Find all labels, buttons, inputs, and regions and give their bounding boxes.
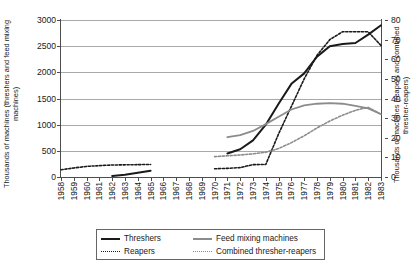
y-axis-left-tick-label: 500: [22, 146, 56, 156]
legend-swatch-dotted-black-icon: [101, 247, 120, 256]
y-axis-left-tick-label: 1000: [22, 120, 56, 130]
chart-legend: Threshers Feed mixing machines Reapers C…: [96, 229, 325, 260]
x-axis-tickmark: [202, 177, 203, 181]
x-axis-tickmark: [151, 177, 152, 181]
legend-row: Reapers Combined thresher-reapers: [101, 245, 320, 258]
x-axis-tickmark: [279, 177, 280, 181]
x-axis-tick-label: 1982: [364, 182, 373, 200]
y-axis-left-tick-label: 0: [22, 172, 56, 182]
x-axis-tick-label: 1973: [249, 182, 258, 200]
legend-label: Feed mixing machines: [216, 234, 298, 243]
y-axis-left-title: Thousands of machines (threshers and fee…: [2, 14, 20, 194]
y-axis-left-tick-label: 3000: [22, 15, 56, 25]
x-axis-tickmark: [189, 177, 190, 181]
y-axis-right-tickmark: [385, 40, 388, 41]
plot-area: [61, 20, 381, 177]
legend-row: Threshers Feed mixing machines: [101, 232, 320, 245]
series-line: [215, 32, 381, 169]
x-axis-tickmark: [112, 177, 113, 181]
x-axis-tickmark: [317, 177, 318, 181]
x-axis-tickmark: [266, 177, 267, 181]
legend-swatch-solid-gray-icon: [193, 234, 212, 243]
x-axis-tick-label: 1983: [377, 182, 386, 200]
x-axis-tickmark: [163, 177, 164, 181]
x-axis-tickmark: [87, 177, 88, 181]
x-axis-tickmark: [343, 177, 344, 181]
x-axis-tickmark: [227, 177, 228, 181]
legend-label: Combined thresher-reapers: [216, 247, 316, 256]
x-axis-tick-label: 1979: [326, 182, 335, 200]
x-axis-tick-label: 1980: [339, 182, 348, 200]
series-layer: [61, 20, 381, 177]
y-axis-right-tickmark: [385, 157, 388, 158]
x-axis-tick-label: 1965: [147, 182, 156, 200]
x-axis-tickmark: [240, 177, 241, 181]
x-axis-tick-label: 1974: [262, 182, 271, 200]
y-axis-right-tickmark: [385, 20, 388, 21]
x-axis-tick-label: 1972: [236, 182, 245, 200]
x-axis-tick-label: 1981: [351, 182, 360, 200]
x-axis-labels: 1958195919601961196219631964196519661967…: [61, 182, 382, 222]
x-axis-tickmark: [291, 177, 292, 181]
x-axis-tickmark: [74, 177, 75, 181]
legend-item-threshers: Threshers: [101, 232, 193, 245]
x-axis-tick-label: 1978: [313, 182, 322, 200]
y-axis-left-tick-label: 2500: [22, 41, 56, 51]
x-axis-tickmark: [253, 177, 254, 181]
legend-label: Reapers: [124, 247, 155, 256]
x-axis-tick-label: 1971: [223, 182, 232, 200]
x-axis-tickmark: [330, 177, 331, 181]
legend-item-reapers: Reapers: [101, 245, 193, 258]
y-axis-right-tickmark: [385, 59, 388, 60]
x-axis-tick-label: 1961: [95, 182, 104, 200]
x-axis-tickmark: [215, 177, 216, 181]
x-axis-tick-label: 1967: [172, 182, 181, 200]
y-axis-left-ticks: 050010001500200025003000: [20, 20, 56, 177]
x-axis-tick-label: 1966: [159, 182, 168, 200]
y-axis-left-tick-label: 2000: [22, 67, 56, 77]
x-axis-tick-label: 1959: [70, 182, 79, 200]
x-axis-tick-label: 1970: [211, 182, 220, 200]
y-axis-right-tickmark: [385, 118, 388, 119]
y-axis-right-tickmark: [385, 99, 388, 100]
x-axis-tickmark: [304, 177, 305, 181]
x-axis-tickmark: [61, 177, 62, 181]
x-axis-tickmark: [176, 177, 177, 181]
chart-figure: Thousands of machines (threshers and fee…: [0, 0, 419, 275]
series-line: [112, 171, 150, 176]
series-line: [227, 25, 381, 153]
legend-label: Threshers: [124, 234, 161, 243]
x-axis-tickmark: [368, 177, 369, 181]
x-axis-tick-label: 1975: [275, 182, 284, 200]
x-axis-tick-label: 1968: [185, 182, 194, 200]
series-line: [61, 164, 151, 169]
x-axis-tickmark: [99, 177, 100, 181]
x-axis-tick-label: 1977: [300, 182, 309, 200]
x-axis-tick-label: 1960: [83, 182, 92, 200]
x-axis-tick-label: 1969: [198, 182, 207, 200]
y-axis-right-tickmark: [385, 138, 388, 139]
y-axis-right-tickmark: [385, 79, 388, 80]
x-axis-tickmark: [125, 177, 126, 181]
x-axis-tick-label: 1963: [121, 182, 130, 200]
legend-swatch-dotted-gray-icon: [193, 247, 212, 256]
y-axis-right-title: Thousands of machines (reapers and combi…: [392, 14, 410, 196]
y-axis-left-tick-label: 1500: [22, 94, 56, 104]
y-axis-right-tickmark: [385, 177, 388, 178]
x-axis-tickmark: [138, 177, 139, 181]
x-axis-tick-label: 1976: [287, 182, 296, 200]
legend-item-combined-thresher-reapers: Combined thresher-reapers: [193, 245, 320, 258]
x-axis-tick-label: 1964: [134, 182, 143, 200]
x-axis-tickmark: [355, 177, 356, 181]
legend-item-feed-mixing-machines: Feed mixing machines: [193, 232, 320, 245]
series-line: [227, 103, 381, 137]
x-axis-tick-label: 1958: [57, 182, 66, 200]
axis-line-right: [381, 19, 382, 178]
x-axis-tick-label: 1962: [108, 182, 117, 200]
legend-swatch-solid-black-icon: [101, 234, 120, 243]
x-axis-tickmark: [381, 177, 382, 181]
